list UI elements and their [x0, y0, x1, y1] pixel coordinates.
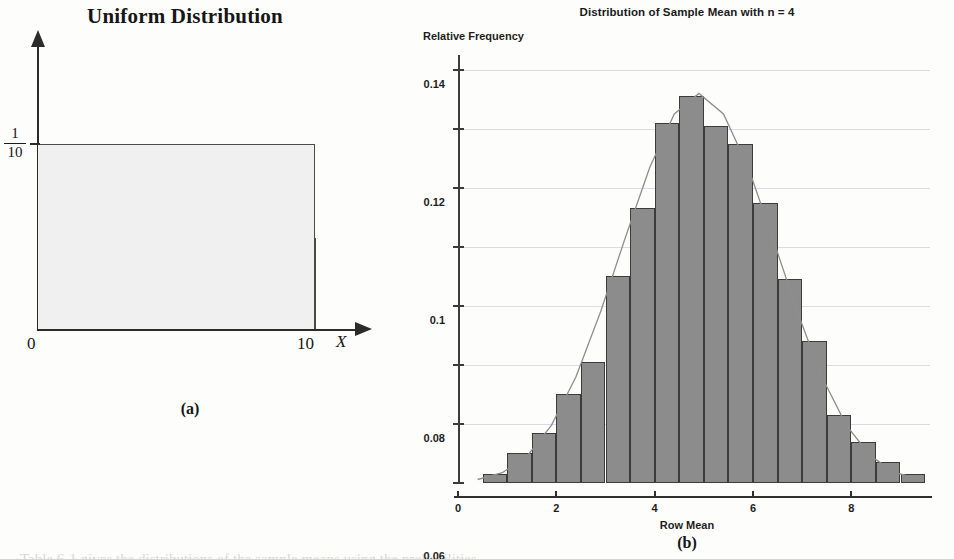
- uniform-density-region: [38, 144, 315, 330]
- normal-curve: [458, 55, 930, 484]
- x-axis-tick: [457, 491, 459, 498]
- x-axis-tick: [850, 491, 852, 498]
- histogram-plot-area: 00.020.040.060.080.10.120.14 02468: [458, 55, 930, 483]
- y-axis-value-one-tenth: 1 10: [2, 126, 28, 161]
- x-axis-tick-label: 4: [652, 502, 658, 514]
- x-axis-variable-label: X: [336, 332, 346, 352]
- panel-b-title: Distribution of Sample Mean with n = 4: [420, 6, 954, 18]
- y-axis-line: [458, 55, 460, 484]
- panel-a-caption: (a): [0, 400, 380, 418]
- x-axis-line: [454, 496, 932, 498]
- x-axis-tick-label: 6: [750, 502, 756, 514]
- panel-a-uniform-distribution: Uniform Distribution 1 10 0 10 X (a): [0, 0, 420, 559]
- panel-b-sample-mean-histogram: Distribution of Sample Mean with n = 4 R…: [420, 0, 954, 559]
- y-axis-tick-label: 0.12: [424, 196, 445, 208]
- page-text-bleed: Table 6-1 gives the distributions of the…: [20, 551, 940, 559]
- x-axis-tick-label: 8: [848, 502, 854, 514]
- fraction-numerator: 1: [2, 126, 28, 142]
- figure-page: Uniform Distribution 1 10 0 10 X (a) Dis…: [0, 0, 954, 559]
- x-axis-tick-label-10: 10: [297, 334, 314, 354]
- x-axis-title: Row Mean: [420, 519, 954, 531]
- right-boundary-line: [314, 238, 316, 330]
- x-axis-line: [37, 329, 357, 331]
- x-axis-arrow-icon: [355, 322, 372, 336]
- x-axis-tick-label: 2: [553, 502, 559, 514]
- y-axis-tick-label: 0.14: [424, 78, 445, 90]
- panel-a-title: Uniform Distribution: [0, 4, 370, 29]
- x-axis-tick: [654, 491, 656, 498]
- x-axis-tick: [752, 491, 754, 498]
- x-axis-tick-label: 0: [455, 502, 461, 514]
- y-axis-tick-label: 0.08: [424, 432, 445, 444]
- x-axis-tick-label-0: 0: [27, 334, 36, 354]
- y-axis-title: Relative Frequency: [423, 30, 524, 42]
- panel-b-caption: (b): [420, 534, 954, 552]
- y-axis-tick: [30, 143, 40, 145]
- y-axis-tick-label: 0.1: [430, 314, 445, 326]
- x-axis-tick: [555, 491, 557, 498]
- fraction-denominator: 10: [2, 145, 28, 161]
